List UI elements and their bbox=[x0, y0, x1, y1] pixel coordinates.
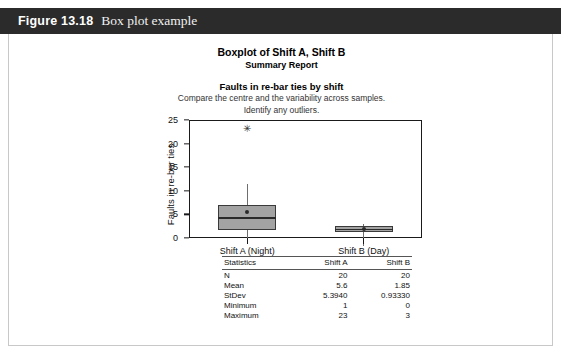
table-cell: 0 bbox=[349, 300, 412, 310]
y-tick-mark bbox=[184, 143, 189, 144]
x-tick-label: Shift B (Day) bbox=[304, 246, 424, 256]
report-subtitle: Summary Report bbox=[9, 59, 554, 72]
col-shift-b: Shift B bbox=[349, 257, 412, 270]
table-cell: Maximum bbox=[222, 310, 295, 320]
y-tick-label: 5 bbox=[138, 209, 178, 219]
table-cell: 0.93330 bbox=[349, 290, 412, 300]
y-tick-mark bbox=[184, 214, 189, 215]
col-shift-a: Shift A bbox=[295, 257, 349, 270]
table-row: Maximum233 bbox=[222, 310, 412, 320]
table-cell: 20 bbox=[349, 270, 412, 281]
table-row: Mean5.61.85 bbox=[222, 280, 412, 290]
table-header-row: Statistics Shift A Shift B bbox=[222, 257, 412, 270]
y-tick-label: 15 bbox=[138, 162, 178, 172]
report-description-line2: Identify any outliers. bbox=[9, 105, 554, 117]
table-cell: 20 bbox=[295, 270, 349, 281]
y-tick-label: 10 bbox=[138, 186, 178, 196]
report-panel: Boxplot of Shift A, Shift B Summary Repo… bbox=[8, 34, 553, 346]
y-tick-mark bbox=[184, 237, 189, 238]
x-tick-mark bbox=[363, 238, 364, 244]
table-cell: 5.3940 bbox=[295, 290, 349, 300]
y-tick-label: 20 bbox=[138, 139, 178, 149]
figure-header: Figure 13.18 Box plot example bbox=[0, 8, 561, 34]
boxplot: Faults in re-bar ties 0510152025 ✳ Shift… bbox=[189, 120, 422, 238]
x-tick-mark bbox=[247, 238, 248, 244]
whisker-upper bbox=[247, 184, 248, 205]
report-question: Faults in re-bar ties by shift bbox=[9, 80, 554, 93]
table-row: StDev5.39400.93330 bbox=[222, 290, 412, 300]
mean-marker bbox=[245, 210, 249, 214]
median-line bbox=[218, 217, 276, 218]
y-tick-mark bbox=[184, 119, 189, 120]
table-cell: 1.85 bbox=[349, 280, 412, 290]
y-tick-mark bbox=[184, 167, 189, 168]
table-cell: Mean bbox=[222, 280, 295, 290]
table-cell: StDev bbox=[222, 290, 295, 300]
x-tick-label: Shift A (Night) bbox=[187, 246, 307, 256]
figure-number: Figure 13.18 bbox=[18, 14, 93, 28]
report-titles: Boxplot of Shift A, Shift B Summary Repo… bbox=[9, 46, 554, 116]
report-description-line1: Compare the centre and the variability a… bbox=[9, 93, 554, 105]
table-cell: Minimum bbox=[222, 300, 295, 310]
y-tick-label: 25 bbox=[138, 115, 178, 125]
outlier-marker: ✳ bbox=[243, 124, 251, 134]
statistics-table: Statistics Shift A Shift B N2020Mean5.61… bbox=[222, 256, 412, 320]
table-cell: 5.6 bbox=[295, 280, 349, 290]
table-cell: N bbox=[222, 270, 295, 281]
mean-marker bbox=[362, 227, 366, 231]
figure-page: Figure 13.18 Box plot example Boxplot of… bbox=[0, 0, 561, 354]
y-tick-label: 0 bbox=[138, 233, 178, 243]
figure-caption: Box plot example bbox=[101, 13, 197, 29]
table-row: Minimum10 bbox=[222, 300, 412, 310]
report-title: Boxplot of Shift A, Shift B bbox=[9, 46, 554, 59]
table-cell: 23 bbox=[295, 310, 349, 320]
y-tick-mark bbox=[184, 190, 189, 191]
col-statistics: Statistics bbox=[222, 257, 295, 270]
table-cell: 3 bbox=[349, 310, 412, 320]
table-row: N2020 bbox=[222, 270, 412, 281]
table-cell: 1 bbox=[295, 300, 349, 310]
